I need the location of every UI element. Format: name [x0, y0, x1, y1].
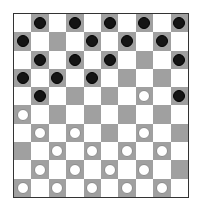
board-square-r5c5[interactable] — [101, 105, 118, 123]
board-square-r0c5[interactable] — [101, 14, 118, 32]
board-square-r2c2[interactable] — [49, 51, 66, 69]
black-piece[interactable] — [69, 54, 81, 66]
black-piece[interactable] — [34, 17, 46, 29]
board-square-r6c8[interactable] — [153, 124, 170, 142]
board-square-r7c3[interactable] — [66, 142, 83, 160]
black-piece[interactable] — [173, 54, 185, 66]
board-square-r8c6[interactable] — [118, 160, 135, 178]
board-square-r9c8[interactable] — [153, 179, 170, 197]
board-square-r2c1[interactable] — [31, 51, 48, 69]
black-piece[interactable] — [69, 17, 81, 29]
white-piece[interactable] — [104, 164, 116, 176]
board-square-r6c5[interactable] — [101, 124, 118, 142]
board-square-r1c2[interactable] — [49, 32, 66, 50]
white-piece[interactable] — [156, 182, 168, 194]
board-square-r0c0[interactable] — [14, 14, 31, 32]
white-piece[interactable] — [34, 164, 46, 176]
black-piece[interactable] — [17, 72, 29, 84]
board-square-r4c9[interactable] — [171, 87, 188, 105]
board-square-r8c5[interactable] — [101, 160, 118, 178]
board-square-r0c2[interactable] — [49, 14, 66, 32]
board-square-r7c4[interactable] — [84, 142, 101, 160]
board-square-r6c6[interactable] — [118, 124, 135, 142]
board-square-r4c6[interactable] — [118, 87, 135, 105]
black-piece[interactable] — [104, 54, 116, 66]
board-square-r3c8[interactable] — [153, 69, 170, 87]
board-square-r8c4[interactable] — [84, 160, 101, 178]
board-square-r2c5[interactable] — [101, 51, 118, 69]
board-square-r1c7[interactable] — [136, 32, 153, 50]
board-square-r9c3[interactable] — [66, 179, 83, 197]
black-piece[interactable] — [86, 35, 98, 47]
board-square-r9c5[interactable] — [101, 179, 118, 197]
board-square-r9c1[interactable] — [31, 179, 48, 197]
black-piece[interactable] — [86, 72, 98, 84]
white-piece[interactable] — [138, 90, 150, 102]
board-square-r4c2[interactable] — [49, 87, 66, 105]
board-square-r4c1[interactable] — [31, 87, 48, 105]
board-square-r7c5[interactable] — [101, 142, 118, 160]
board-square-r0c8[interactable] — [153, 14, 170, 32]
board-square-r5c4[interactable] — [84, 105, 101, 123]
board-square-r7c1[interactable] — [31, 142, 48, 160]
black-piece[interactable] — [17, 35, 29, 47]
board-square-r2c3[interactable] — [66, 51, 83, 69]
black-piece[interactable] — [34, 90, 46, 102]
board-square-r2c0[interactable] — [14, 51, 31, 69]
board-square-r1c5[interactable] — [101, 32, 118, 50]
white-piece[interactable] — [156, 145, 168, 157]
board-square-r0c6[interactable] — [118, 14, 135, 32]
board-square-r5c1[interactable] — [31, 105, 48, 123]
board-square-r6c4[interactable] — [84, 124, 101, 142]
board-square-r7c2[interactable] — [49, 142, 66, 160]
board-square-r4c4[interactable] — [84, 87, 101, 105]
white-piece[interactable] — [51, 145, 63, 157]
board-square-r6c1[interactable] — [31, 124, 48, 142]
board-square-r2c4[interactable] — [84, 51, 101, 69]
board-square-r1c6[interactable] — [118, 32, 135, 50]
white-piece[interactable] — [138, 164, 150, 176]
board-square-r5c7[interactable] — [136, 105, 153, 123]
board-square-r4c8[interactable] — [153, 87, 170, 105]
board-square-r0c1[interactable] — [31, 14, 48, 32]
board-square-r9c2[interactable] — [49, 179, 66, 197]
board-square-r7c8[interactable] — [153, 142, 170, 160]
board-square-r8c3[interactable] — [66, 160, 83, 178]
board-square-r1c8[interactable] — [153, 32, 170, 50]
board-square-r3c4[interactable] — [84, 69, 101, 87]
board-square-r6c0[interactable] — [14, 124, 31, 142]
board-square-r9c9[interactable] — [171, 179, 188, 197]
board-square-r6c3[interactable] — [66, 124, 83, 142]
white-piece[interactable] — [34, 127, 46, 139]
board-square-r5c2[interactable] — [49, 105, 66, 123]
board-square-r5c9[interactable] — [171, 105, 188, 123]
board-square-r0c9[interactable] — [171, 14, 188, 32]
white-piece[interactable] — [121, 145, 133, 157]
black-piece[interactable] — [121, 35, 133, 47]
board-square-r2c6[interactable] — [118, 51, 135, 69]
board-square-r6c7[interactable] — [136, 124, 153, 142]
board-square-r9c6[interactable] — [118, 179, 135, 197]
board-square-r0c4[interactable] — [84, 14, 101, 32]
board-square-r6c9[interactable] — [171, 124, 188, 142]
black-piece[interactable] — [34, 54, 46, 66]
white-piece[interactable] — [86, 182, 98, 194]
board-square-r3c2[interactable] — [49, 69, 66, 87]
board-square-r1c0[interactable] — [14, 32, 31, 50]
board-square-r9c4[interactable] — [84, 179, 101, 197]
white-piece[interactable] — [69, 164, 81, 176]
board-square-r1c9[interactable] — [171, 32, 188, 50]
board-square-r5c0[interactable] — [14, 105, 31, 123]
white-piece[interactable] — [86, 145, 98, 157]
board-square-r7c7[interactable] — [136, 142, 153, 160]
board-square-r8c8[interactable] — [153, 160, 170, 178]
board-square-r4c5[interactable] — [101, 87, 118, 105]
board-square-r1c3[interactable] — [66, 32, 83, 50]
white-piece[interactable] — [17, 182, 29, 194]
board-square-r9c7[interactable] — [136, 179, 153, 197]
board-square-r7c0[interactable] — [14, 142, 31, 160]
board-square-r6c2[interactable] — [49, 124, 66, 142]
white-piece[interactable] — [69, 127, 81, 139]
board-square-r3c3[interactable] — [66, 69, 83, 87]
board-square-r1c1[interactable] — [31, 32, 48, 50]
